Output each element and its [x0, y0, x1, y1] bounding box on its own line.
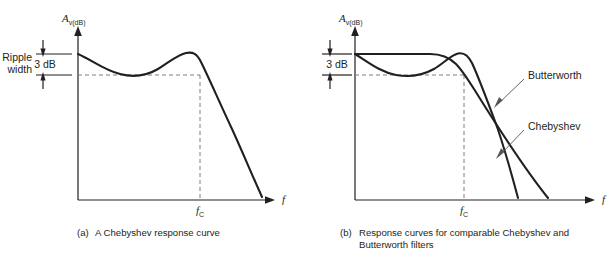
panel-a-y-axis-arrowhead	[74, 26, 82, 36]
panel-b-3db-arrow-down	[327, 49, 332, 58]
panel-b-3db-arrow-up	[327, 72, 332, 81]
panel-b: Av(dB) f 3 dB fC Butterworth	[322, 12, 607, 250]
panel-a-ripple-width-label-line1: Ripple	[2, 51, 32, 63]
panel-a-y-axis-label: Av(dB)	[61, 12, 85, 27]
panel-b-butterworth-annotation: Butterworth	[494, 69, 582, 108]
panel-b-butterworth-label: Butterworth	[528, 69, 582, 81]
panel-a-3db-arrow-down	[40, 49, 45, 58]
panel-b-y-axis-arrowhead	[351, 26, 359, 36]
figure-container: Av(dB) f 3 dB Ripple width fC (a) A Cheb…	[0, 0, 616, 260]
panel-a-y-axis	[74, 26, 82, 200]
panel-a-cutoff-frequency-label: fC	[196, 204, 204, 218]
panel-a-3db-arrow-up	[40, 72, 45, 81]
panel-b-y-axis	[351, 26, 359, 200]
panel-b-x-axis	[355, 196, 595, 204]
panel-b-caption-tag: (b)	[340, 227, 352, 238]
panel-a-caption-tag: (a)	[77, 227, 89, 238]
panel-b-chebyshev-label: Chebyshev	[528, 120, 581, 132]
panel-b-y-axis-label: Av(dB)	[338, 12, 362, 27]
panel-b-butterworth-leader-arrowhead	[494, 97, 503, 108]
panel-a: Av(dB) f 3 dB Ripple width fC (a) A Cheb…	[2, 12, 287, 238]
panel-b-3db-label: 3 dB	[326, 58, 348, 70]
panel-b-chebyshev-annotation: Chebyshev	[496, 120, 581, 159]
panel-a-x-axis-arrowhead	[265, 196, 275, 204]
panel-b-cutoff-frequency-label: fC	[460, 204, 468, 218]
panel-a-x-axis-label: f	[282, 193, 287, 205]
panel-a-x-axis	[78, 196, 275, 204]
panel-a-ripple-width-label-line2: width	[6, 63, 32, 75]
panel-b-x-axis-label: f	[602, 193, 607, 205]
panel-a-caption-text: A Chebyshev response curve	[95, 227, 220, 238]
panel-a-chebyshev-curve	[78, 53, 262, 197]
panel-b-x-axis-arrowhead	[585, 196, 595, 204]
panel-b-caption-line1: Response curves for comparable Chebyshev…	[359, 227, 569, 238]
panel-b-butterworth-curve	[355, 54, 548, 198]
panel-b-caption-line2: Butterworth filters	[359, 239, 434, 250]
panel-a-3db-label: 3 dB	[34, 58, 56, 70]
